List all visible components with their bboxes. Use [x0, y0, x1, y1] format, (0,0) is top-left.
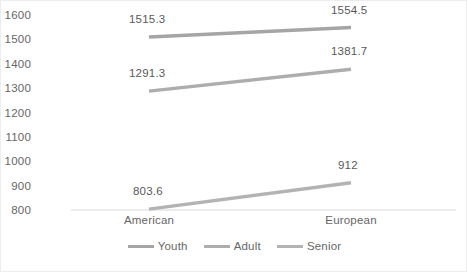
x-axis-tick-european: European: [325, 215, 376, 227]
series-line-senior: [149, 183, 351, 209]
legend-line-icon: [277, 245, 303, 248]
series-line-youth: [149, 28, 351, 38]
legend-line-icon: [204, 245, 230, 248]
data-label: 1381.7: [331, 46, 367, 58]
legend-line-icon: [128, 245, 154, 248]
data-label: 1291.3: [129, 68, 165, 80]
data-label: 912: [338, 160, 358, 172]
series-line-adult: [149, 69, 351, 91]
line-chart: 1600 1500 1400 1300 1200 1100 1000 900 8…: [0, 0, 467, 272]
legend-label: Youth: [158, 241, 188, 253]
data-label: 803.6: [133, 186, 163, 198]
x-axis-tick-american: American: [124, 215, 174, 227]
data-label: 1554.5: [331, 5, 367, 17]
legend-label: Senior: [307, 241, 341, 253]
data-label: 1515.3: [129, 14, 165, 26]
legend-item-youth[interactable]: Youth: [128, 241, 188, 253]
legend-item-adult[interactable]: Adult: [204, 241, 261, 253]
legend-item-senior[interactable]: Senior: [277, 241, 341, 253]
legend-label: Adult: [234, 241, 261, 253]
x-axis: American European: [1, 215, 467, 235]
chart-legend: Youth Adult Senior: [1, 241, 467, 253]
